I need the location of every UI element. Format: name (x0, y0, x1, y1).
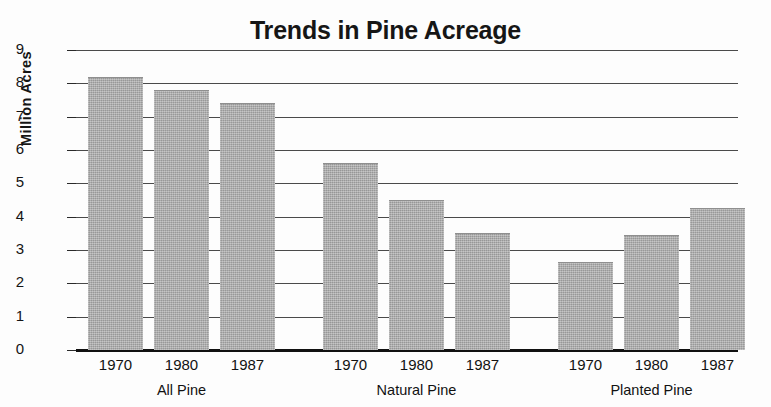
group-label: Natural Pine (317, 382, 517, 398)
y-tick-label: 9 (0, 40, 24, 57)
group-label: All Pine (82, 382, 282, 398)
plot-area (76, 50, 738, 350)
bar-chart: Trends in Pine Acreage Million Acres 012… (0, 0, 771, 407)
y-tick-label: 4 (0, 207, 24, 224)
bar (154, 90, 209, 350)
x-tick-label: 1987 (678, 356, 758, 373)
y-tick-mark (67, 283, 76, 284)
y-tick-mark (67, 83, 76, 84)
bar (690, 208, 745, 350)
y-tick-mark (67, 350, 76, 351)
group-label: Planted Pine (552, 382, 752, 398)
chart-title: Trends in Pine Acreage (0, 16, 771, 45)
bar (323, 163, 378, 350)
y-tick-label: 7 (0, 107, 24, 124)
y-tick-mark (67, 117, 76, 118)
y-tick-label: 2 (0, 273, 24, 290)
y-tick-label: 6 (0, 140, 24, 157)
y-tick-mark (67, 250, 76, 251)
gridline (76, 83, 738, 84)
bar (88, 77, 143, 350)
bar (389, 200, 444, 350)
y-tick-mark (67, 217, 76, 218)
bar (455, 233, 510, 350)
y-tick-label: 1 (0, 307, 24, 324)
gridline (76, 50, 738, 51)
y-tick-mark (67, 50, 76, 51)
y-tick-mark (67, 150, 76, 151)
y-tick-label: 3 (0, 240, 24, 257)
y-tick-label: 5 (0, 173, 24, 190)
bar (624, 235, 679, 350)
y-tick-mark (67, 317, 76, 318)
x-tick-label: 1987 (443, 356, 523, 373)
y-tick-mark (67, 183, 76, 184)
bar (558, 262, 613, 350)
y-tick-label: 0 (0, 340, 24, 357)
y-tick-label: 8 (0, 73, 24, 90)
x-tick-label: 1987 (208, 356, 288, 373)
bar (220, 103, 275, 350)
